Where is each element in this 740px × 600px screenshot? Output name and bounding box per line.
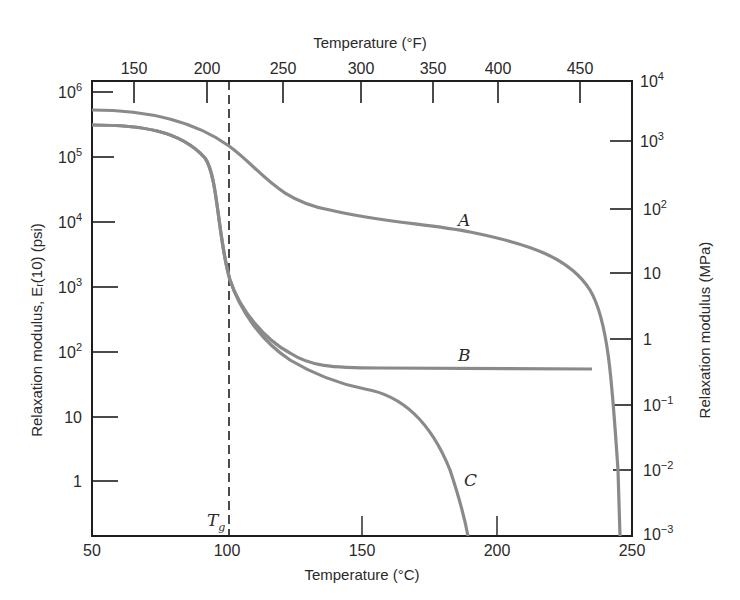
svg-text:10: 10 bbox=[643, 265, 661, 282]
right-axis-title: Relaxation modulus (MPa) bbox=[696, 242, 713, 419]
curve-c bbox=[92, 125, 468, 536]
left-axis-title: Relaxation modulus, Eᵣ(10) (psi) bbox=[28, 223, 45, 437]
curve-a-label: A bbox=[456, 210, 470, 230]
svg-text:10−2: 10−2 bbox=[643, 459, 673, 479]
curve-c-label: C bbox=[464, 470, 477, 490]
svg-text:100: 100 bbox=[214, 542, 241, 559]
top-axis-labels: 150 200 250 300 350 400 450 bbox=[121, 60, 594, 77]
curve-b bbox=[92, 125, 592, 369]
bottom-axis-title: Temperature (°C) bbox=[304, 566, 419, 583]
svg-text:103: 103 bbox=[640, 130, 664, 150]
plot-frame bbox=[92, 81, 632, 536]
top-axis-ticks bbox=[134, 81, 580, 103]
svg-text:350: 350 bbox=[420, 60, 447, 77]
svg-text:105: 105 bbox=[58, 146, 82, 166]
svg-text:200: 200 bbox=[194, 60, 221, 77]
left-axis-ticks bbox=[92, 92, 118, 481]
svg-text:1: 1 bbox=[643, 331, 652, 348]
left-axis-labels: 106 105 104 103 102 10 1 bbox=[58, 81, 82, 490]
relaxation-modulus-chart: 150 200 250 300 350 400 450 Temperature … bbox=[0, 0, 740, 600]
svg-text:102: 102 bbox=[58, 341, 82, 361]
curve-a bbox=[92, 110, 620, 536]
curve-b-label: B bbox=[457, 345, 471, 365]
svg-text:104: 104 bbox=[640, 70, 664, 90]
svg-text:250: 250 bbox=[270, 60, 297, 77]
svg-text:104: 104 bbox=[58, 211, 82, 231]
svg-text:50: 50 bbox=[83, 542, 101, 559]
svg-text:150: 150 bbox=[121, 60, 148, 77]
svg-text:300: 300 bbox=[348, 60, 375, 77]
svg-text:102: 102 bbox=[643, 198, 667, 218]
svg-text:400: 400 bbox=[485, 60, 512, 77]
tg-label: Tg bbox=[207, 510, 225, 534]
svg-text:450: 450 bbox=[567, 60, 594, 77]
bottom-axis-labels: 50 100 150 200 250 bbox=[83, 542, 645, 559]
svg-text:1: 1 bbox=[73, 473, 82, 490]
svg-text:10−1: 10−1 bbox=[643, 394, 673, 414]
svg-text:10: 10 bbox=[64, 409, 82, 426]
svg-text:10−3: 10−3 bbox=[643, 523, 673, 543]
svg-text:103: 103 bbox=[58, 276, 82, 296]
bottom-axis-ticks bbox=[362, 516, 497, 536]
svg-text:150: 150 bbox=[349, 542, 376, 559]
top-axis-title: Temperature (°F) bbox=[313, 34, 427, 51]
right-axis-labels: 104 103 102 10 1 10−1 10−2 10−3 bbox=[640, 70, 673, 543]
svg-text:250: 250 bbox=[619, 542, 646, 559]
svg-text:106: 106 bbox=[58, 81, 82, 101]
svg-text:200: 200 bbox=[484, 542, 511, 559]
